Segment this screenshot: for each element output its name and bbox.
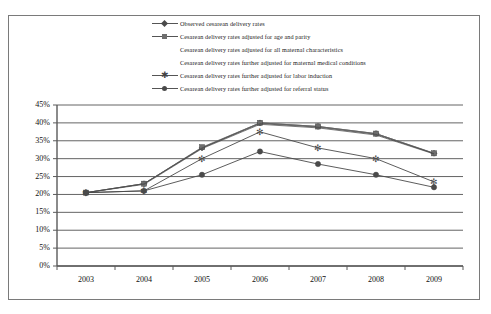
x-axis-tick-label: 2009	[410, 275, 458, 284]
y-axis-tick-label: 20%	[24, 189, 50, 198]
plot-area: ✻✻✻✻✻✻✻ 45%40%35%30%25%20%15%10%5%0% 200…	[0, 0, 491, 314]
y-axis-tick-label: 25%	[24, 172, 50, 181]
svg-text:✻: ✻	[256, 127, 264, 137]
x-axis-tick-label: 2005	[178, 275, 226, 284]
svg-text:✻: ✻	[314, 143, 322, 153]
svg-text:✻: ✻	[198, 154, 206, 164]
x-axis-tick-label: 2008	[352, 275, 400, 284]
y-axis-tick-label: 10%	[24, 225, 50, 234]
x-axis-tick-label: 2007	[294, 275, 342, 284]
y-axis-tick-label: 40%	[24, 118, 50, 127]
x-axis-tick-label: 2004	[120, 275, 168, 284]
y-axis-tick-label: 15%	[24, 207, 50, 216]
y-axis-tick-label: 35%	[24, 136, 50, 145]
chart-container: Observed cesarean delivery rates Cesarea…	[0, 0, 491, 314]
svg-text:✻: ✻	[372, 154, 380, 164]
y-axis-tick-label: 5%	[24, 243, 50, 252]
plot-svg: ✻✻✻✻✻✻✻	[0, 0, 491, 314]
y-axis-tick-label: 0%	[24, 261, 50, 270]
x-axis-tick-label: 2003	[62, 275, 110, 284]
data-series	[83, 149, 436, 196]
y-axis-tick-label: 45%	[24, 100, 50, 109]
y-axis-tick-label: 30%	[24, 154, 50, 163]
x-axis-tick-label: 2006	[236, 275, 284, 284]
